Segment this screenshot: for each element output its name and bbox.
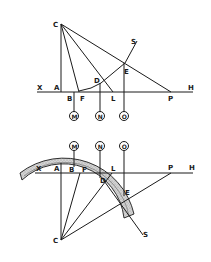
circle-label-o-bottom: O xyxy=(122,143,127,150)
label-a-bottom: A xyxy=(54,165,60,173)
label-h: H xyxy=(188,84,194,92)
label-b-bottom: B xyxy=(69,166,74,174)
label-l-bottom: L xyxy=(111,165,116,173)
label-p-bottom: P xyxy=(168,164,173,172)
label-c: C xyxy=(53,21,58,29)
circle-label-n: N xyxy=(98,113,103,120)
label-b: B xyxy=(67,95,72,103)
label-h-bottom: H xyxy=(189,164,195,172)
label-e: E xyxy=(124,68,129,76)
label-x: X xyxy=(37,84,43,92)
top-diagram xyxy=(37,24,193,121)
label-p: P xyxy=(168,95,173,103)
label-f-bottom: F xyxy=(82,166,87,174)
label-d: D xyxy=(94,77,100,85)
circle-label-m-bottom: M xyxy=(72,143,78,150)
figure-canvas: C S E D X A H B F L P M N O X A xyxy=(0,0,211,262)
label-c-bottom: C xyxy=(53,237,58,245)
geometry-figure: C S E D X A H B F L P M N O X A xyxy=(0,0,211,262)
circle-label-o: O xyxy=(122,113,127,120)
circle-label-m: M xyxy=(72,113,78,120)
line-cl xyxy=(61,24,113,92)
circle-label-n-bottom: N xyxy=(98,143,103,150)
line-cf xyxy=(61,24,79,92)
label-a: A xyxy=(54,84,60,92)
line-cp xyxy=(61,24,171,92)
label-d-bottom: D xyxy=(100,177,106,185)
label-x-bottom: X xyxy=(36,165,42,173)
label-l: L xyxy=(111,95,116,103)
line-es-bottom xyxy=(102,178,143,235)
label-s-bottom: S xyxy=(143,231,148,239)
label-s: S xyxy=(131,38,136,46)
label-e-bottom: E xyxy=(125,189,130,197)
label-f: F xyxy=(80,95,85,103)
